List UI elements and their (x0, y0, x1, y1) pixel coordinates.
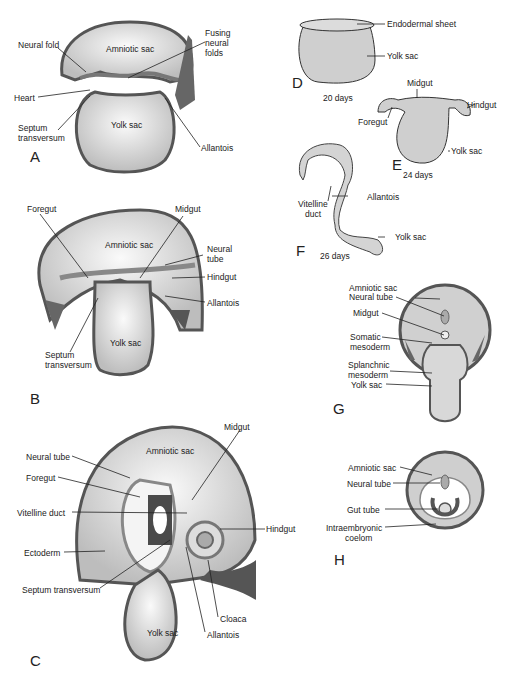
days-label-d: 20 days (323, 93, 353, 103)
label-allantois: Allantois (367, 192, 399, 202)
label-yolk-sac: Yolk sac (147, 628, 178, 638)
label-hindgut: Hindgut (266, 524, 295, 534)
panel-label-b: B (30, 390, 40, 407)
label-vitelline-duct: Vitelline duct (17, 508, 65, 518)
label-midgut: Midgut (224, 422, 250, 432)
panel-label-c: C (30, 652, 41, 669)
label-ectoderm: Ectoderm (24, 548, 60, 558)
label-mesoderm-2: mesoderm (348, 370, 388, 380)
label-septum-transversum: Septum transversum (22, 585, 100, 595)
label-cloaca: Cloaca (220, 614, 246, 624)
label-transversum: transversum (18, 133, 65, 143)
label-yolk-sac: Yolk sac (387, 51, 418, 61)
label-neural-tube: Neural tube (347, 479, 391, 489)
label-mesoderm: mesoderm (350, 342, 390, 352)
label-allantois: Allantois (201, 143, 233, 153)
label-splanchnic: Splanchnic (348, 360, 390, 370)
panel-label-f: F (296, 242, 305, 259)
label-midgut: Midgut (407, 78, 433, 88)
label-fusing: Fusing (205, 28, 231, 38)
label-yolk-sac: Yolk sac (395, 232, 426, 242)
label-folds: folds (205, 48, 223, 58)
label-hindgut: Hindgut (207, 272, 236, 282)
label-yolk-sac: Yolk sac (351, 380, 382, 390)
label-midgut: Midgut (175, 204, 201, 214)
label-tube: tube (207, 254, 224, 264)
label-amniotic-sac: Amniotic sac (106, 44, 154, 54)
label-neural: neural (205, 38, 229, 48)
label-midgut: Midgut (353, 308, 379, 318)
label-allantois: Allantois (207, 298, 239, 308)
label-gut-tube: Gut tube (347, 505, 380, 515)
label-foregut: Foregut (27, 204, 56, 214)
label-amniotic-sac: Amniotic sac (146, 446, 194, 456)
label-neural-tube: Neural tube (349, 292, 393, 302)
panel-g-drawing (400, 285, 490, 421)
days-label-f: 26 days (320, 251, 350, 261)
panel-label-h: H (334, 551, 345, 568)
panel-d-drawing (299, 19, 375, 83)
panel-label-d: D (292, 74, 303, 91)
label-yolk-sac: Yolk sac (451, 146, 482, 156)
label-vitelline: Vitelline (298, 199, 328, 209)
days-label-e: 24 days (403, 170, 433, 180)
label-heart: Heart (14, 93, 35, 103)
label-foregut: Foregut (358, 117, 387, 127)
label-neural: Neural (207, 244, 232, 254)
label-transversum: transversum (45, 360, 92, 370)
label-amniotic-sac: Amniotic sac (105, 240, 153, 250)
label-septum: Septum (45, 350, 74, 360)
label-neural-tube: Neural tube (26, 452, 70, 462)
label-coelom: coelom (345, 533, 372, 543)
label-duct: duct (305, 209, 321, 219)
label-yolk-sac: Yolk sac (110, 338, 141, 348)
panel-label-e: E (392, 156, 402, 173)
diagram-canvas (0, 0, 509, 675)
label-endodermal-sheet: Endodermal sheet (387, 19, 456, 29)
label-yolk-sac: Yolk sac (111, 120, 142, 130)
panel-c-drawing (77, 427, 256, 660)
label-septum: Septum (18, 123, 47, 133)
label-somatic: Somatic (350, 332, 381, 342)
panel-label-g: G (333, 400, 345, 417)
panel-h-drawing (407, 452, 483, 528)
label-intraembryonic: Intraembryonic (326, 523, 382, 533)
label-hindgut: Hindgut (467, 100, 496, 110)
label-amniotic-sac: Amniotic sac (348, 463, 396, 473)
label-neural-fold: Neural fold (18, 40, 59, 50)
panel-label-a: A (30, 148, 40, 165)
label-allantois: Allantois (207, 630, 239, 640)
label-foregut: Foregut (26, 473, 55, 483)
